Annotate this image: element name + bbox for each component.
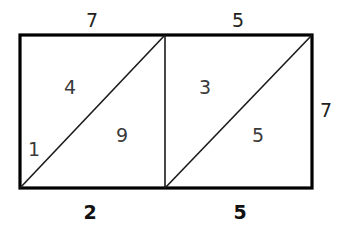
geometry-figure: 7 5 7 2 5 4 9 1 3 5 xyxy=(0,0,344,228)
outer-rectangle xyxy=(20,35,312,188)
left-diagonal-line xyxy=(20,35,165,188)
right-diagonal-line xyxy=(165,35,312,188)
figure-canvas xyxy=(0,0,344,228)
